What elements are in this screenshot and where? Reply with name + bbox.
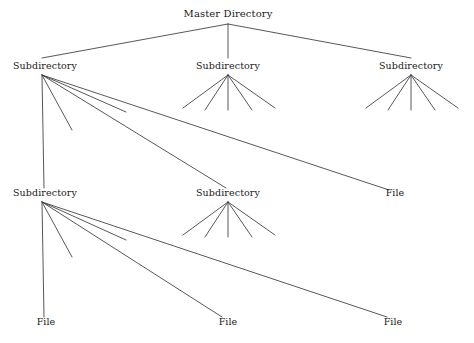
file-node-label: File <box>384 316 403 328</box>
tree-edge <box>183 202 228 235</box>
subdirectory-node-label: Subdirectory <box>196 187 260 199</box>
tree-edge <box>228 75 252 110</box>
subdirectory-node-label: Subdirectory <box>13 187 77 199</box>
tree-edge <box>366 75 411 108</box>
tree-edge <box>42 24 228 58</box>
root-node-label: Master Directory <box>184 8 273 20</box>
tree-edge <box>228 202 252 237</box>
tree-edge <box>42 75 389 190</box>
subdirectory-node-label: Subdirectory <box>196 60 260 72</box>
tree-edge <box>42 202 126 240</box>
directory-tree-diagram: Master DirectorySubdirectorySubdirectory… <box>0 0 474 343</box>
tree-edge <box>228 24 411 58</box>
tree-edges-canvas <box>0 0 474 343</box>
tree-edge <box>411 75 458 108</box>
tree-edge <box>42 202 387 317</box>
tree-edge <box>205 202 228 237</box>
subdirectory-node-label: Subdirectory <box>379 60 443 72</box>
tree-edge <box>228 202 275 235</box>
tree-edge <box>42 75 226 188</box>
tree-edge <box>42 202 222 317</box>
tree-edge <box>42 75 126 112</box>
tree-edge <box>388 75 411 110</box>
subdirectory-node-label: Subdirectory <box>13 60 77 72</box>
tree-edge <box>42 75 44 188</box>
tree-edge <box>228 75 275 108</box>
file-node-label: File <box>219 316 238 328</box>
file-node-label: File <box>37 316 56 328</box>
file-node-label: File <box>386 187 405 199</box>
tree-edge <box>183 75 228 108</box>
tree-edge <box>42 202 44 317</box>
tree-edge <box>411 75 435 110</box>
tree-edge <box>205 75 228 110</box>
